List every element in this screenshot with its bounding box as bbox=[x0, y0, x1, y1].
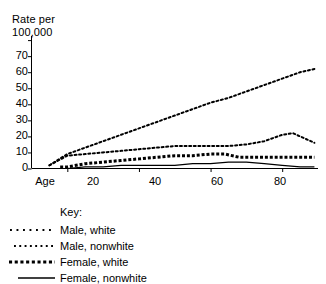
series-line-female-nonwhite bbox=[49, 162, 314, 168]
series-line-male-nonwhite bbox=[49, 133, 314, 165]
legend-item-male-nonwhite: Male, nonwhite bbox=[8, 238, 134, 253]
legend-label-female-white: Female, white bbox=[60, 256, 128, 268]
legend-item-male-white: Male, white bbox=[8, 222, 116, 237]
legend-label-male-white: Male, white bbox=[60, 224, 116, 236]
x-axis-ticks bbox=[68, 169, 283, 173]
data-series-layer bbox=[49, 69, 314, 169]
legend-swatch-solid-icon bbox=[8, 272, 56, 284]
legend-label-male-nonwhite: Male, nonwhite bbox=[60, 240, 134, 252]
chart-container: Rate per100,000 0 10 20 30 40 50 60 70 A… bbox=[0, 0, 326, 284]
axis-lines bbox=[28, 36, 318, 172]
legend-swatch-dotted-fine-2-icon bbox=[8, 240, 56, 252]
legend-swatch-dotted-bold-icon bbox=[8, 256, 56, 268]
y-axis-ticks bbox=[28, 41, 32, 169]
legend-title: Key: bbox=[60, 206, 82, 218]
series-line-male-white bbox=[49, 69, 314, 165]
plot-area bbox=[0, 0, 326, 200]
legend-swatch-dotted-fine-icon bbox=[8, 224, 56, 236]
legend-label-female-nonwhite: Female, nonwhite bbox=[60, 272, 147, 284]
legend-item-female-nonwhite: Female, nonwhite bbox=[8, 270, 147, 284]
legend-item-female-white: Female, white bbox=[8, 254, 128, 269]
